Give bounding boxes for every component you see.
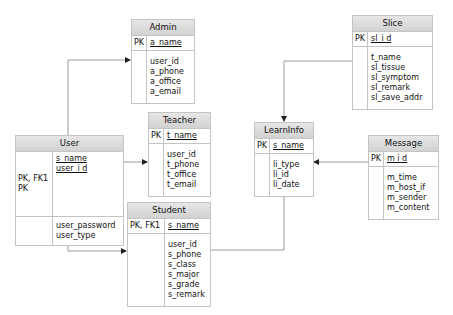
primary-key-fields: a_name [147, 36, 185, 50]
attribute-fields: li_typeli_id li_date [270, 154, 302, 196]
attribute-fields: m_timem_host_if m_senderm_content [384, 167, 432, 219]
key-column [353, 47, 368, 109]
entity-slice[interactable]: Slice PK sl_i d t_namesl_tissue sl_sympt… [352, 15, 433, 110]
entity-title: LearnInfo [255, 123, 313, 139]
key-column [369, 167, 384, 219]
key-column: PK [369, 152, 384, 166]
entity-title: User [16, 136, 123, 152]
key-column: PK [132, 36, 147, 50]
key-column [132, 51, 147, 103]
entity-user[interactable]: User PK, FK1PK s_nameuser_i d user_passw… [15, 135, 124, 246]
key-column: PK [149, 129, 164, 143]
student-learninfo-line [210, 189, 284, 250]
entity-title: Teacher [149, 113, 210, 129]
primary-key-fields: sl_i d [368, 32, 394, 46]
key-column [149, 144, 164, 196]
primary-key-fields: t_name [164, 129, 200, 143]
primary-key-fields: s_name [270, 139, 307, 153]
entity-admin[interactable]: Admin PK a_name user_ida_phone a_officea… [131, 19, 195, 104]
key-column [255, 154, 270, 196]
attribute-fields: user_ids_phone s_classs_major s_grades_r… [165, 234, 208, 306]
attribute-fields: user_idt_phone t_officet_email [164, 144, 202, 196]
entity-title: Message [369, 136, 438, 152]
entity-message[interactable]: Message PK m i d m_timem_host_if m_sende… [368, 135, 439, 220]
primary-key-fields: m i d [384, 152, 410, 166]
attribute-fields: user_ida_phone a_officea_email [147, 51, 187, 103]
attribute-fields: t_namesl_tissue sl_symptomsl_remark sl_s… [368, 47, 425, 109]
slice-learninfo-line [284, 61, 352, 121]
key-column [16, 217, 53, 245]
entity-title: Admin [132, 20, 194, 36]
entity-learninfo[interactable]: LearnInfo PK s_name li_typeli_id li_date [254, 122, 314, 197]
key-column: PK [255, 139, 270, 153]
entity-title: Slice [353, 16, 432, 32]
attribute-fields: user_passworduser_type [53, 217, 118, 245]
entity-teacher[interactable]: Teacher PK t_name user_idt_phone t_offic… [148, 112, 211, 197]
primary-key-fields: s_nameuser_i d [53, 152, 90, 216]
primary-key-fields: s_name [165, 219, 202, 233]
key-column: PK, FK1 [128, 219, 165, 233]
key-column: PK, FK1PK [16, 152, 53, 216]
user-admin-line [68, 60, 130, 135]
key-column [128, 234, 165, 306]
key-column: PK [353, 32, 368, 46]
entity-student[interactable]: Student PK, FK1 s_name user_ids_phone s_… [127, 202, 211, 307]
entity-title: Student [128, 203, 210, 219]
